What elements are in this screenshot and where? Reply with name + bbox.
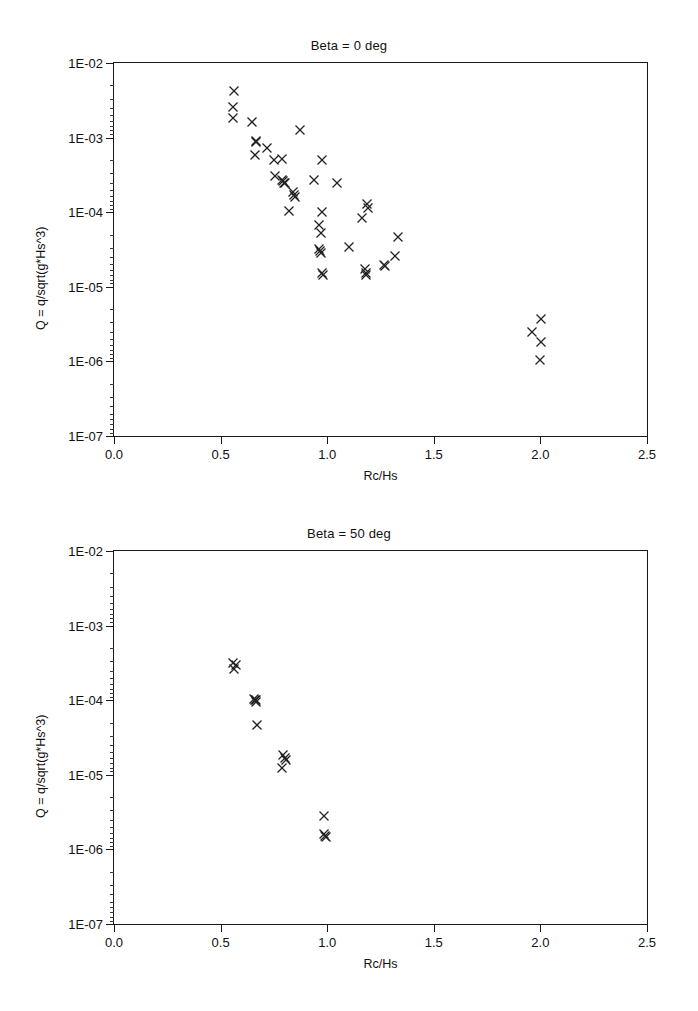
y-axis-tick-minor (110, 838, 115, 839)
y-axis-tick-minor (110, 872, 115, 873)
y-axis-tick-minor (110, 270, 115, 271)
x-axis-tick-label: 2.0 (531, 935, 549, 950)
y-axis-tick-minor (110, 99, 115, 100)
y-axis-tick-minor (110, 205, 115, 206)
data-point-marker (279, 178, 290, 189)
y-axis-tick-minor (110, 433, 115, 434)
data-point-marker (262, 142, 273, 153)
data-point-marker (316, 267, 327, 278)
y-axis-tick-minor (110, 587, 115, 588)
y-axis-tick-minor (110, 797, 115, 798)
data-markers (114, 63, 647, 436)
data-point-marker (360, 267, 371, 278)
y-axis-tick-major (106, 212, 114, 213)
data-point-marker (361, 198, 372, 209)
y-axis-tick-minor (110, 134, 115, 135)
y-axis-tick-minor (110, 345, 115, 346)
data-point-marker (321, 832, 332, 843)
x-axis-tick-label: 2.5 (638, 447, 656, 462)
chart-panel-beta-0: Beta = 0 deg 1E-021E-031E-041E-051E-061E… (0, 0, 698, 500)
x-axis-tick-label: 1.5 (425, 935, 443, 950)
y-axis-tick-label: 1E-05 (68, 767, 103, 782)
data-point-marker (249, 695, 260, 706)
chart-panel-beta-50: Beta = 50 deg 1E-021E-031E-041E-051E-061… (0, 500, 698, 1011)
data-point-marker (314, 246, 325, 257)
data-point-marker (316, 155, 327, 166)
data-point-marker (246, 116, 257, 127)
y-axis-tick-label: 1E-04 (68, 205, 103, 220)
y-axis-tick-minor (110, 693, 115, 694)
data-point-marker (278, 177, 289, 188)
y-axis-tick-minor (110, 350, 115, 351)
y-axis-tick-minor (110, 671, 115, 672)
y-axis-tick-minor (110, 126, 115, 127)
data-point-marker (319, 829, 330, 840)
y-axis-tick-minor (110, 745, 115, 746)
data-point-marker (280, 754, 291, 765)
y-axis-tick-minor (110, 902, 115, 903)
y-axis-title: Q = q/sqrt(g*Hs^3) (34, 227, 48, 330)
y-axis-tick-label: 1E-03 (68, 130, 103, 145)
data-point-marker (279, 752, 290, 763)
y-axis-tick-minor (110, 907, 115, 908)
plot-area: 1E-021E-031E-041E-051E-061E-070.00.51.01… (113, 62, 648, 437)
x-axis-tick-major (647, 924, 648, 932)
chart-title: Beta = 50 deg (0, 526, 698, 541)
y-axis-tick-major (106, 551, 114, 552)
data-point-marker (536, 314, 547, 325)
y-axis-tick-minor (110, 752, 115, 753)
y-axis-tick-minor (110, 684, 115, 685)
data-point-marker (284, 205, 295, 216)
y-axis-tick-minor (110, 384, 115, 385)
y-axis-tick-minor (110, 596, 115, 597)
y-axis-tick-minor (110, 429, 115, 430)
y-axis-tick-minor (110, 618, 115, 619)
y-axis-tick-minor (110, 322, 115, 323)
y-axis-tick-minor (110, 573, 115, 574)
y-axis-tick-minor (110, 358, 115, 359)
y-axis-tick-minor (110, 758, 115, 759)
y-axis-tick-minor (110, 275, 115, 276)
x-axis-tick-major (114, 924, 115, 932)
y-axis-tick-minor (110, 768, 115, 769)
y-axis-tick-minor (110, 827, 115, 828)
plot-area: 1E-021E-031E-041E-051E-061E-070.00.51.01… (113, 550, 648, 925)
data-point-marker (230, 659, 241, 670)
y-axis-tick-label: 1E-04 (68, 693, 103, 708)
data-point-marker (361, 270, 372, 281)
y-axis-tick-minor (110, 771, 115, 772)
data-point-marker (278, 176, 289, 187)
data-point-marker (277, 762, 288, 773)
y-axis-tick-label: 1E-02 (68, 56, 103, 71)
x-axis-tick-major (434, 436, 435, 444)
y-axis-tick-minor (110, 689, 115, 690)
data-point-marker (314, 220, 325, 231)
y-axis-tick-label: 1E-07 (68, 429, 103, 444)
y-axis-tick-minor (110, 332, 115, 333)
data-point-marker (390, 250, 401, 261)
y-axis-tick-minor (110, 921, 115, 922)
y-axis-tick-minor (110, 414, 115, 415)
y-axis-tick-minor (110, 820, 115, 821)
data-point-marker (378, 260, 389, 271)
x-axis-tick-major (647, 436, 648, 444)
y-axis-tick-major (106, 924, 114, 925)
y-axis-tick-minor (110, 810, 115, 811)
y-axis-tick-minor (110, 257, 115, 258)
data-point-marker (314, 244, 325, 255)
data-point-marker (343, 242, 354, 253)
data-point-marker (294, 125, 305, 136)
x-axis-tick-label: 0.0 (105, 935, 123, 950)
y-axis-tick-minor (110, 723, 115, 724)
data-point-marker (227, 112, 238, 123)
y-axis-tick-major (106, 775, 114, 776)
data-point-marker (536, 337, 547, 348)
y-axis-tick-minor (110, 419, 115, 420)
data-point-marker (362, 202, 373, 213)
x-axis-tick-major (434, 924, 435, 932)
x-axis-tick-major (221, 436, 222, 444)
y-axis-tick-minor (110, 209, 115, 210)
y-axis-tick-minor (110, 354, 115, 355)
x-axis-tick-major (540, 436, 541, 444)
x-axis-tick-label: 0.5 (212, 935, 230, 950)
